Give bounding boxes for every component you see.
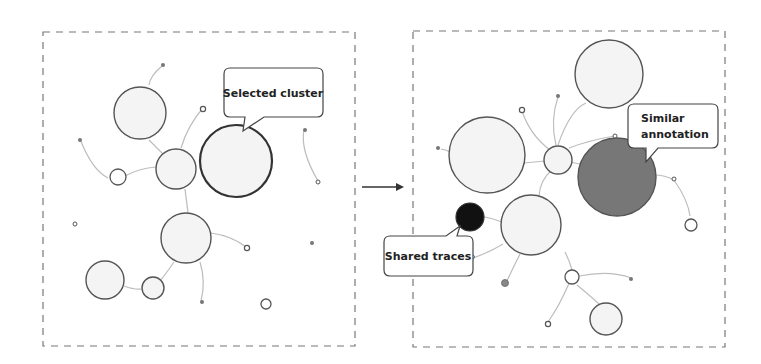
node-similar-annotation[interactable] (578, 138, 656, 216)
node-large[interactable] (449, 117, 525, 193)
node-small[interactable] (261, 299, 271, 309)
node-small[interactable] (685, 219, 697, 231)
node-medium[interactable] (156, 149, 196, 189)
left-panel: Selected cluster (43, 32, 355, 346)
callout-similar-annotation-line1: Similar (641, 112, 685, 125)
callout-selected-cluster: Selected cluster (223, 68, 324, 131)
callout-shared-traces-label: Shared traces (385, 250, 472, 263)
right-panel-frame (413, 31, 725, 347)
callout-similar-annotation-line2: annotation (641, 128, 709, 141)
node-medium[interactable] (590, 303, 622, 335)
node-small[interactable] (110, 169, 126, 185)
node-large[interactable] (501, 195, 561, 255)
node-medium[interactable] (544, 146, 572, 174)
node-large[interactable] (575, 40, 643, 108)
node-large[interactable] (86, 261, 124, 299)
transition-arrow (362, 183, 404, 191)
node-large[interactable] (114, 87, 166, 139)
node-large[interactable] (161, 213, 211, 263)
diagram-canvas: Selected cluster (0, 0, 761, 364)
callout-shared-traces: Shared traces (384, 226, 473, 276)
node-small[interactable] (565, 270, 579, 284)
right-panel: Similar annotation Shared traces (384, 31, 725, 347)
callout-selected-cluster-label: Selected cluster (223, 87, 324, 100)
node-medium[interactable] (142, 277, 164, 299)
node-selected-cluster[interactable] (200, 125, 272, 197)
